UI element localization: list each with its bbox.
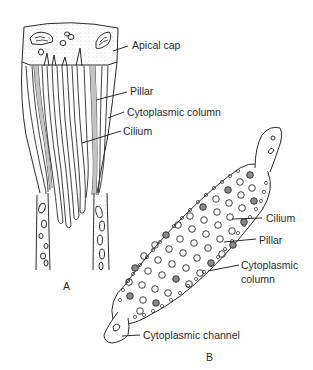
label-apical-cap: Apical cap (132, 39, 180, 51)
panel-b-drawing (104, 127, 282, 343)
panel-a-drawing (22, 23, 129, 270)
panel-label-a: A (63, 280, 70, 292)
label-cytoplasmic-channel: Cytoplasmic channel (143, 329, 240, 341)
label-cilium-a: Cilium (123, 125, 152, 137)
cilia-cross-section-diagram: Apical cap Pillar Cytoplasmic column Cil… (0, 0, 313, 370)
label-pillar-b: Pillar (259, 234, 282, 246)
label-cytoplasmic-column-a: Cytoplasmic column (127, 106, 221, 118)
label-cytoplasmic-column-b-line1: Cytoplasmic (241, 259, 298, 271)
label-cytoplasmic-column-b-line2: column (241, 273, 275, 285)
panel-label-b: B (206, 351, 213, 363)
label-cilium-b: Cilium (266, 212, 295, 224)
diagram-drawing (0, 0, 313, 370)
label-pillar-a: Pillar (130, 85, 153, 97)
